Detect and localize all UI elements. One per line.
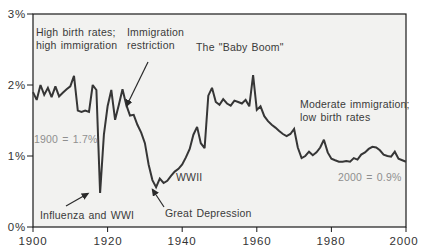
x-tick-label-1980: 1980 (314, 235, 348, 247)
annotation-great-depression: Great Depression (165, 207, 252, 220)
annotation-immigration-restriction: Immigration restriction (127, 26, 184, 52)
y-tick-label-1pct: 1% (0, 149, 26, 163)
population-growth-chart: 3% 2% 1% 0% 1900 1920 1940 1960 1980 200… (0, 0, 421, 252)
annotation-baby-boom: The "Baby Boom" (196, 41, 284, 54)
annotation-moderate-immigration: Moderate immigration; low birth rates (300, 98, 410, 124)
x-tick-label-2000: 2000 (387, 235, 421, 247)
y-tick-label-0pct: 0% (0, 220, 26, 234)
annotation-wwii: WWII (176, 171, 202, 184)
x-tick-label-1920: 1920 (91, 235, 125, 247)
y-axis-ticks (27, 14, 33, 227)
y-tick-label-3pct: 3% (0, 7, 26, 21)
x-tick-label-1900: 1900 (16, 235, 50, 247)
x-tick-label-1940: 1940 (165, 235, 199, 247)
x-axis-ticks (33, 227, 406, 232)
x-tick-label-1960: 1960 (240, 235, 274, 247)
y-tick-label-2pct: 2% (0, 78, 26, 92)
annotation-high-birth-rates: High birth rates; high immigration (36, 26, 117, 52)
annotation-2000-value: 2000 = 0.9% (338, 171, 401, 184)
annotation-1900-value: 1900 = 1.7% (34, 133, 97, 146)
annotation-influenza-wwi: Influenza and WWI (40, 209, 134, 222)
